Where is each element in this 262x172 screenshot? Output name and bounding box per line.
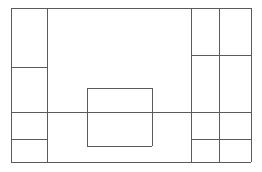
layout-wireframe-diagram [0, 0, 262, 172]
wireframe-canvas [0, 0, 262, 172]
